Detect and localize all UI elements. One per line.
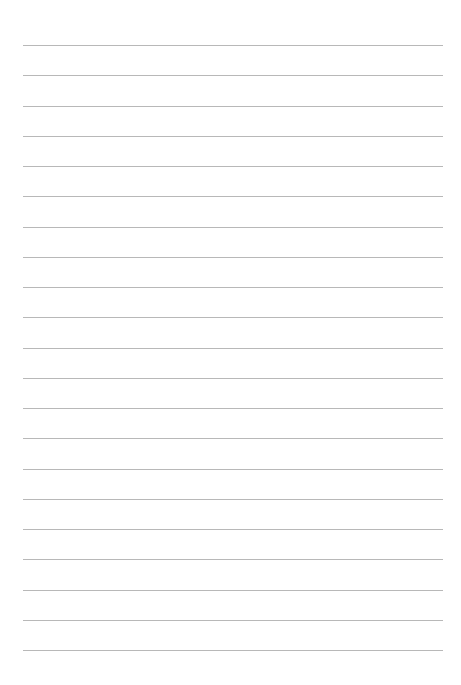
ruled-line [23,227,443,228]
ruled-line [23,408,443,409]
ruled-line [23,317,443,318]
ruled-line [23,590,443,591]
ruled-line [23,499,443,500]
ruled-line [23,136,443,137]
ruled-line [23,438,443,439]
ruled-line [23,559,443,560]
ruled-line [23,348,443,349]
ruled-line [23,106,443,107]
ruled-line [23,287,443,288]
ruled-line [23,257,443,258]
ruled-line [23,529,443,530]
ruled-line [23,650,443,651]
ruled-line [23,469,443,470]
ruled-line [23,166,443,167]
ruled-line [23,75,443,76]
ruled-line [23,196,443,197]
ruled-line [23,45,443,46]
lined-paper-page [0,0,461,685]
ruled-line [23,378,443,379]
ruled-line [23,620,443,621]
